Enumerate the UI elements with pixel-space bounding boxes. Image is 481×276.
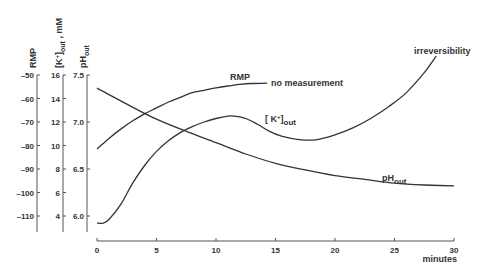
rmp-tick-label: –90: [21, 165, 35, 174]
k-tick-label: 16: [51, 71, 60, 80]
ph-out-curve: [97, 88, 454, 186]
x-axis-title: minutes: [422, 254, 457, 264]
ph-curve-label: pHout: [382, 173, 407, 186]
ph-tick-label: 6.5: [73, 165, 85, 174]
x-tick-label: 25: [390, 246, 399, 255]
k-title-sub: out: [59, 40, 66, 52]
ph-tick-label: 7.5: [73, 71, 85, 80]
rmp-curve-label: RMP: [230, 72, 250, 82]
rmp-axis-title-text: RMP: [28, 48, 38, 68]
k-axis-title-text: [K+]out , mM: [54, 18, 66, 68]
k-tick-label: 10: [51, 142, 60, 151]
ph-axis-title-text: pHout: [78, 44, 90, 68]
rmp-tick-label: –100: [16, 189, 34, 198]
x-tick-label: 20: [331, 246, 340, 255]
chart: RMP [K+]out , mM pHout –50–60–70–80–90–1…: [0, 0, 481, 276]
x-tick-label: 10: [212, 246, 221, 255]
rmp-tick-label: –60: [21, 95, 35, 104]
k-label-main: [ K: [265, 114, 277, 124]
k-tick-label: 6: [56, 189, 61, 198]
ph-tick-label: 6.0: [73, 212, 85, 221]
ph-title-sub: out: [83, 44, 90, 56]
k-curve-label: [ K+]out: [265, 114, 296, 127]
k-tick-label: 4: [56, 212, 61, 221]
x-tick-label: 15: [271, 246, 280, 255]
rmp-tick-label: –50: [21, 71, 35, 80]
rmp-tick-label: –80: [21, 142, 35, 151]
axes: –50–60–70–80–90–100–110161412108647.57.0…: [16, 71, 459, 255]
ph-label-main: pH: [382, 173, 394, 183]
rmp-axis-title: RMP: [28, 48, 38, 68]
k-axis-title: [K+]out , mM: [54, 18, 66, 68]
k-tick-label: 8: [56, 165, 61, 174]
ph-tick-label: 7.0: [73, 118, 85, 127]
k-title-unit: , mM: [54, 18, 64, 41]
k-label-sub: out: [284, 118, 297, 127]
ph-title-main: pH: [78, 56, 88, 68]
ph-label-sub: out: [394, 177, 407, 186]
k-tick-label: 14: [51, 95, 60, 104]
rmp-tick-label: –110: [17, 212, 35, 221]
k-out-curve: [97, 56, 436, 223]
x-tick-label: 5: [154, 246, 159, 255]
irreversibility-label: irreversibility: [414, 46, 471, 56]
rmp-curve: [97, 83, 267, 149]
ph-axis-title: pHout: [78, 44, 90, 68]
no-measurement-label: no measurement: [271, 78, 343, 88]
rmp-tick-label: –70: [21, 118, 35, 127]
k-title-main: [K: [54, 58, 64, 68]
k-tick-label: 12: [51, 118, 60, 127]
x-tick-label: 0: [95, 246, 100, 255]
